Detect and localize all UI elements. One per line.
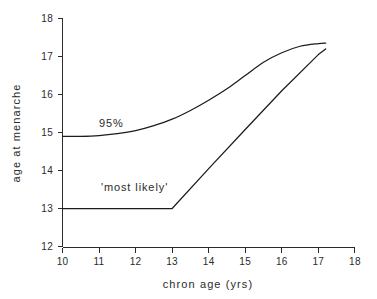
- x-tick-label-11: 11: [94, 256, 105, 267]
- x-tick-label-17: 17: [312, 256, 324, 267]
- y-axis-ticks: [58, 19, 63, 247]
- chart-figure: 18 17 16 15 14 13 12 10 11 12 13 14 15 1…: [0, 0, 377, 299]
- x-axis-title: chron age (yrs): [163, 278, 253, 290]
- chart-canvas: 18 17 16 15 14 13 12 10 11 12 13 14 15 1…: [0, 0, 377, 299]
- y-tick-label-13: 13: [41, 203, 53, 214]
- x-axis-ticks: [63, 248, 355, 253]
- y-tick-label-14: 14: [41, 165, 53, 176]
- y-tick-label-12: 12: [41, 241, 53, 252]
- annotation-most-likely: 'most likely': [101, 181, 168, 193]
- y-tick-label-16: 16: [41, 89, 53, 100]
- x-axis-tick-labels: 10 11 12 13 14 15 16 17 18: [57, 256, 361, 267]
- x-tick-label-12: 12: [130, 256, 142, 267]
- x-tick-label-13: 13: [166, 256, 178, 267]
- x-tick-label-14: 14: [203, 256, 215, 267]
- y-tick-label-17: 17: [41, 51, 53, 62]
- y-axis-tick-labels: 18 17 16 15 14 13 12: [41, 13, 53, 252]
- x-tick-label-10: 10: [57, 256, 69, 267]
- x-tick-label-18: 18: [349, 256, 361, 267]
- y-tick-label-15: 15: [41, 127, 53, 138]
- y-axis-title: age at menarche: [10, 83, 22, 182]
- annotation-95-percent: 95%: [99, 117, 124, 129]
- y-tick-label-18: 18: [41, 13, 53, 24]
- x-tick-label-16: 16: [276, 256, 288, 267]
- x-tick-label-15: 15: [239, 256, 251, 267]
